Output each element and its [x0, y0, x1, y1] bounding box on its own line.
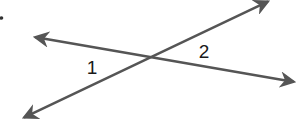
angle-1-label: 1 — [87, 57, 98, 78]
intersecting-lines-diagram: 1 2 — [0, 0, 296, 122]
line-a-double-arrow — [36, 37, 293, 81]
line-b-double-arrow — [25, 2, 267, 117]
bullet-dot — [0, 16, 3, 20]
angle-2-label: 2 — [199, 41, 210, 62]
